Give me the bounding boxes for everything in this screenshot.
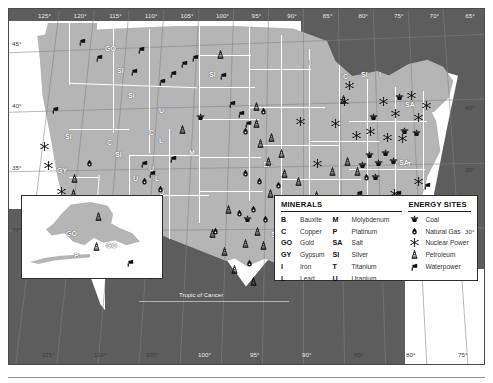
petroleum-icon: [343, 157, 352, 166]
coal-icon: [371, 173, 380, 182]
legend-mineral-name: Titanium: [352, 263, 377, 270]
petroleum-icon: [328, 167, 337, 176]
nuclear-power-icon: [414, 177, 423, 186]
nuclear-power-icon: [345, 81, 354, 90]
mineral-label-t: T: [407, 161, 411, 168]
alaska-mineral-label-go: GO: [66, 230, 77, 237]
map-page: Tropic of Cancer GOSISISIGYSICSICLCCSICU…: [0, 0, 493, 383]
waterpower-icon: [137, 45, 146, 54]
legend-mineral-row: TTitanium: [333, 261, 390, 272]
natural-gas-icon: [259, 107, 268, 116]
petroleum-icon: [220, 247, 229, 256]
longitude-label-bottom: 115°: [42, 351, 55, 358]
waterpower-icon: [228, 99, 237, 108]
legend-mineral-name: Bauxite: [300, 216, 322, 223]
mineral-label-si: SI: [65, 133, 72, 140]
mineral-label-si: SI: [361, 71, 368, 78]
mineral-label-sa: SA: [405, 101, 415, 108]
legend-energy-name: Nuclear Power: [425, 239, 468, 246]
state-boundary: [309, 49, 310, 199]
tropic-of-cancer-line: [139, 301, 289, 302]
waterpower-icon: [148, 169, 157, 178]
state-boundary: [309, 141, 379, 142]
nuclear-power-icon: [379, 97, 388, 106]
legend-mineral-name: Gold: [300, 239, 314, 246]
legend-mineral-code: SA: [333, 238, 348, 247]
petroleum-icon: [408, 250, 421, 259]
coal-icon: [365, 151, 374, 160]
natural-gas-icon: [249, 205, 258, 214]
natural-gas-icon: [274, 181, 283, 190]
latitude-label-left: 35°: [12, 164, 22, 171]
natural-gas-icon: [241, 169, 250, 178]
mineral-label-i: I: [309, 59, 311, 66]
legend-mineral-row: SASalt: [333, 238, 390, 249]
legend-minerals-heading: MINERALS: [281, 200, 402, 212]
waterpower-icon: [51, 105, 60, 114]
petroleum-icon: [178, 125, 187, 134]
mineral-label-u: U: [133, 175, 138, 182]
state-boundary: [169, 129, 170, 239]
alaska-inset[interactable]: GOGOP: [21, 195, 163, 279]
nuclear-power-icon: [352, 131, 361, 140]
legend-mineral-row: MMolybdenum: [333, 214, 390, 225]
natural-gas-icon: [156, 185, 165, 194]
legend-energy-row: Petroleum: [408, 249, 471, 260]
longitude-label-bottom: 100°: [198, 351, 211, 358]
map-legend: MINERALS BBauxiteCCopperGOGoldGYGypsumII…: [274, 195, 478, 281]
legend-mineral-code: T: [333, 262, 348, 271]
alaska-mineral-label-p: P: [74, 252, 79, 259]
longitude-label-top: 85°: [323, 12, 333, 19]
nuclear-power-icon: [40, 142, 49, 151]
legend-mineral-name: Platinum: [352, 228, 378, 235]
state-boundary: [249, 69, 311, 70]
legend-energy-name: Petroleum: [425, 251, 455, 258]
waterpower-icon: [169, 154, 178, 163]
waterpower-icon: [180, 59, 189, 68]
longitude-label-top: 120°: [74, 12, 87, 19]
legend-mineral-name: Silver: [352, 251, 369, 258]
longitude-label-bottom: 110°: [94, 351, 107, 358]
alaska-mineral-label-go: GO: [106, 242, 117, 249]
waterpower-icon: [140, 159, 149, 168]
legend-energy-row: Waterpower: [408, 261, 471, 272]
legend-mineral-row: GYGypsum: [281, 249, 325, 260]
latitude-label-right: 40°: [465, 104, 475, 111]
state-boundary: [113, 21, 114, 133]
natural-gas-icon: [85, 159, 94, 168]
mineral-label-si: SI: [209, 71, 216, 78]
petroleum-icon: [280, 169, 289, 178]
latitude-label-right: 35°: [465, 166, 475, 173]
mineral-label-c: C: [107, 139, 112, 146]
natural-gas-icon: [241, 127, 250, 136]
coal-icon: [243, 215, 252, 224]
legend-mineral-name: Molybdenum: [352, 216, 390, 223]
petroleum-icon: [252, 119, 261, 128]
legend-energy-name: Waterpower: [425, 263, 460, 270]
coal-icon: [400, 127, 409, 136]
legend-energy-name: Coal: [425, 216, 439, 223]
latitude-label-left: 30°: [12, 226, 22, 233]
legend-energy-row: Natural Gas: [408, 226, 471, 237]
legend-mineral-code: U: [333, 274, 348, 283]
longitude-label-top: 95°: [252, 12, 262, 19]
mineral-label-si: SI: [115, 151, 122, 158]
legend-energy-name: Natural Gas: [425, 228, 460, 235]
bottom-divider-rule: [8, 377, 485, 378]
legend-mineral-row: GOGold: [281, 238, 325, 249]
map-frame: Tropic of Cancer GOSISISIGYSICSICLCCSICU…: [8, 8, 485, 365]
legend-energy-row: Nuclear Power: [408, 238, 471, 249]
petroleum-icon: [264, 157, 273, 166]
mineral-label-i: I: [379, 71, 381, 78]
legend-mineral-row: CCopper: [281, 226, 325, 237]
nuclear-power-icon: [408, 238, 421, 247]
legend-mineral-code: GY: [281, 250, 296, 259]
legend-mineral-code: L: [281, 274, 296, 283]
legend-energy-heading: ENERGY SITES: [408, 200, 471, 212]
state-boundary: [199, 55, 251, 56]
coal-icon: [412, 129, 421, 138]
nuclear-power-icon: [296, 117, 305, 126]
state-boundary: [199, 191, 263, 192]
petroleum-icon: [267, 133, 276, 142]
legend-mineral-code: SI: [333, 250, 348, 259]
